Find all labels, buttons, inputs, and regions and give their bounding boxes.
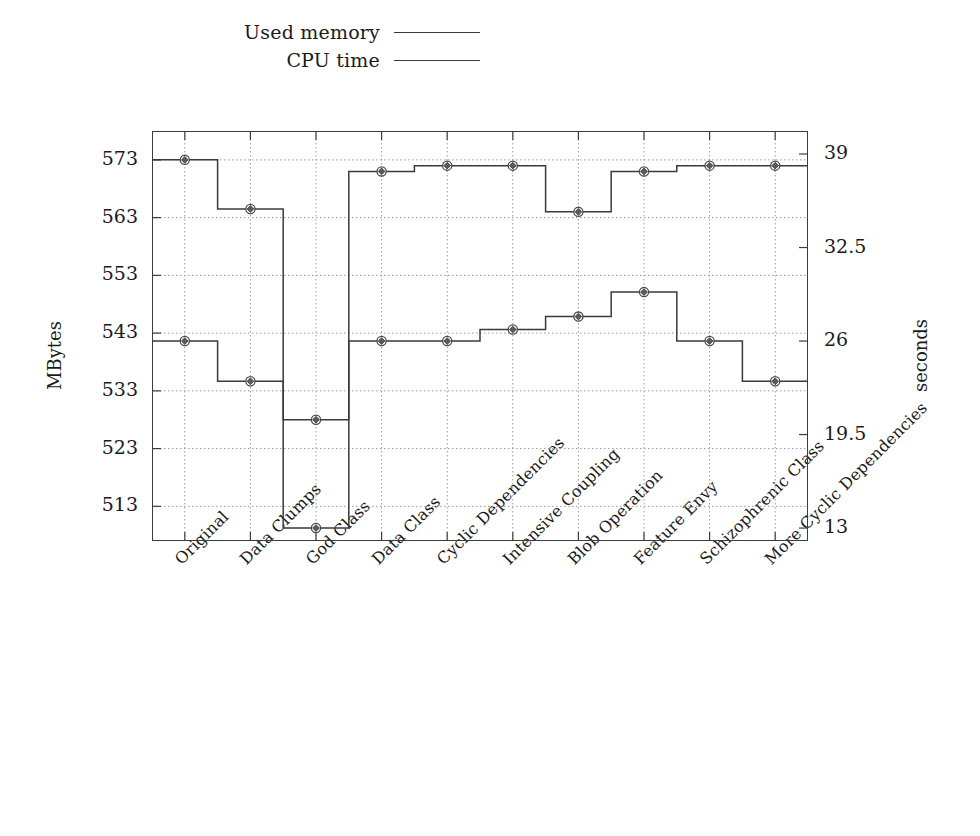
y-tick-label-left: 533: [68, 378, 138, 400]
legend-label-used-memory: Used memory: [244, 21, 380, 43]
y-tick-label-left: 513: [68, 493, 138, 515]
plot-frame-border: [152, 131, 808, 541]
y-tick-label-left: 563: [68, 205, 138, 227]
y-tick-label-right: 26: [824, 328, 894, 350]
y-tick-label-left: 573: [68, 147, 138, 169]
y-tick-label-left: 543: [68, 320, 138, 342]
y-tick-label-left: 523: [68, 436, 138, 458]
plot-area: [152, 131, 808, 541]
legend-item-used-memory: Used memory: [150, 18, 480, 46]
y-tick-label-right: 39: [824, 141, 894, 163]
legend-line-sample-cpu-time: [394, 60, 480, 61]
y-axis-title-left: MBytes: [44, 296, 65, 416]
legend-item-cpu-time: CPU time: [150, 46, 480, 74]
chart-canvas: Used memory CPU time MBytes seconds 5735…: [0, 0, 980, 836]
legend-line-sample-used-memory: [394, 32, 480, 33]
y-axis-title-right: seconds: [910, 296, 931, 416]
y-tick-label-left: 553: [68, 262, 138, 284]
chart-legend: Used memory CPU time: [150, 18, 480, 74]
legend-label-cpu-time: CPU time: [286, 49, 380, 71]
y-tick-label-right: 13: [824, 515, 894, 537]
y-tick-label-right: 32.5: [824, 235, 894, 257]
